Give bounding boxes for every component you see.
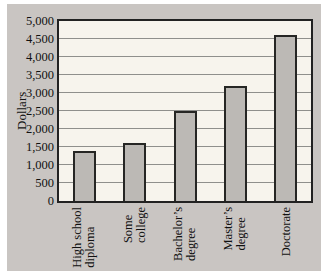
category-label-high-school-diploma: High school diploma (71, 207, 97, 268)
gridline-3500 (59, 74, 311, 75)
bar-bachelor-s-degree (174, 111, 197, 201)
bar-high-school-diploma (73, 151, 96, 201)
bar-some-college (123, 143, 146, 201)
chart-panel: Dollars 05001,0001,5002,0002,5003,0003,5… (7, 4, 321, 271)
gridline-4000 (59, 56, 311, 57)
category-label-some-college: Some college (122, 207, 148, 243)
y-tick-label-0: 0 (12, 195, 54, 208)
y-tick-label-4-500: 4,500 (12, 33, 54, 46)
y-tick-label-2-000: 2,000 (12, 123, 54, 136)
category-label-bachelor-s-degree: Bachelor’s degree (172, 207, 198, 261)
y-tick-label-5-000: 5,000 (12, 15, 54, 28)
y-tick-label-3-500: 3,500 (12, 69, 54, 82)
category-label-master-s-degree: Master’s degree (222, 207, 248, 251)
category-label-doctorate: Doctorate (279, 207, 292, 256)
plot-area (57, 19, 313, 203)
figure: Dollars 05001,0001,5002,0002,5003,0003,5… (0, 0, 328, 278)
y-tick-label-500: 500 (12, 177, 54, 190)
y-tick-label-1-500: 1,500 (12, 141, 54, 154)
bar-doctorate (274, 35, 297, 201)
gridline-3000 (59, 92, 311, 93)
y-tick-label-1-000: 1,000 (12, 159, 54, 172)
y-tick-label-4-000: 4,000 (12, 51, 54, 64)
bar-master-s-degree (224, 86, 247, 201)
y-tick-label-2-500: 2,500 (12, 105, 54, 118)
gridline-4500 (59, 38, 311, 39)
y-tick-label-3-000: 3,000 (12, 87, 54, 100)
